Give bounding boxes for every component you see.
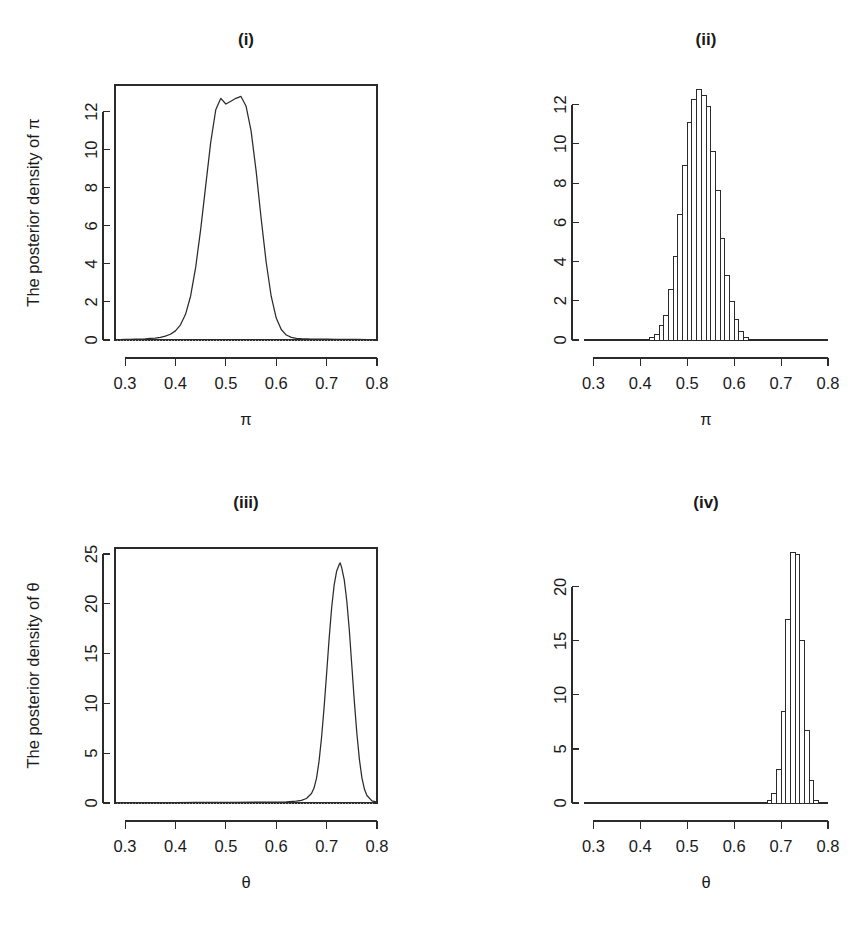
x-tick-label: 0.6 (723, 374, 746, 392)
histogram-bar (697, 90, 702, 340)
y-tick-label: 2 (551, 296, 569, 305)
y-axis-title: The posterior density of π (24, 118, 42, 306)
x-tick-label: 0.7 (770, 374, 793, 392)
x-tick-label: 0.6 (265, 374, 288, 392)
x-tick-label: 0.7 (770, 837, 793, 855)
histogram-bar (659, 325, 664, 340)
panel-title: (ii) (696, 30, 717, 49)
histogram-bar (734, 319, 739, 340)
x-tick-label: 0.5 (676, 374, 699, 392)
histogram-bar (668, 289, 673, 340)
y-tick-label: 20 (82, 595, 100, 613)
histogram-bar (767, 801, 772, 803)
figure-canvas: (i)024681012The posterior density of π0.… (0, 0, 867, 926)
y-tick-label: 5 (551, 744, 569, 753)
histogram-bar (683, 165, 688, 340)
y-tick-label: 5 (82, 749, 100, 758)
y-tick-label: 15 (551, 632, 569, 650)
density-curve (115, 96, 377, 339)
panel-title: (iv) (693, 493, 719, 512)
x-axis-title: θ (241, 873, 250, 891)
plot-box-frame (115, 85, 377, 340)
x-axis-title: π (700, 410, 711, 428)
x-tick-label: 0.8 (817, 374, 840, 392)
x-tick-label: 0.4 (629, 374, 652, 392)
histogram-bar (781, 711, 786, 803)
x-axis-title: θ (701, 873, 710, 891)
y-tick-label: 0 (551, 335, 569, 344)
histogram-bar (701, 96, 706, 340)
y-tick-label: 20 (551, 578, 569, 596)
y-tick-label: 12 (551, 95, 569, 113)
x-tick-label: 0.3 (114, 837, 137, 855)
histogram-bar (650, 337, 655, 340)
histogram-bar (678, 214, 683, 340)
panel-iv-svg: (iv)051015200.30.40.50.60.70.8θ (434, 463, 867, 926)
panel-ii: (ii)0246810120.30.40.50.60.70.8π (434, 0, 867, 463)
x-tick-label: 0.4 (164, 837, 187, 855)
panel-iii-svg: (iii)0510152025The posterior density of … (0, 463, 433, 926)
panel-title: (i) (238, 30, 254, 49)
y-tick-label: 0 (551, 798, 569, 807)
histogram-bar (744, 337, 749, 340)
x-axis-title: π (240, 410, 251, 428)
y-tick-label: 8 (551, 178, 569, 187)
x-tick-label: 0.3 (582, 837, 605, 855)
histogram-bar (814, 800, 819, 803)
histogram-bar (664, 315, 669, 340)
histogram-bar (795, 554, 800, 803)
histogram-bar (673, 257, 678, 340)
x-tick-label: 0.8 (366, 837, 389, 855)
x-tick-label: 0.5 (214, 837, 237, 855)
panel-iii: (iii)0510152025The posterior density of … (0, 463, 433, 926)
histogram-bar (725, 275, 730, 340)
panel-i: (i)024681012The posterior density of π0.… (0, 0, 433, 463)
panel-iv: (iv)051015200.30.40.50.60.70.8θ (434, 463, 867, 926)
x-tick-label: 0.5 (214, 374, 237, 392)
histogram-bar (772, 793, 777, 803)
histogram-bar (687, 122, 692, 340)
y-tick-label: 4 (82, 259, 100, 268)
x-tick-label: 0.3 (114, 374, 137, 392)
y-tick-label: 10 (82, 694, 100, 712)
histogram-bar (706, 107, 711, 340)
y-tick-label: 4 (551, 257, 569, 266)
y-tick-label: 6 (551, 218, 569, 227)
x-tick-label: 0.7 (315, 374, 338, 392)
histogram-bar (809, 780, 814, 803)
y-tick-label: 25 (82, 545, 100, 563)
panel-i-svg: (i)024681012The posterior density of π0.… (0, 0, 433, 463)
histogram-bar (729, 302, 734, 340)
panel-title: (iii) (233, 493, 259, 512)
plot-box-frame (115, 548, 377, 803)
histogram-bar (776, 770, 781, 804)
x-tick-label: 0.4 (629, 837, 652, 855)
x-tick-label: 0.8 (817, 837, 840, 855)
histogram-bar (711, 152, 716, 340)
y-tick-label: 10 (551, 135, 569, 153)
y-tick-label: 10 (82, 141, 100, 159)
y-tick-label: 0 (82, 335, 100, 344)
y-tick-label: 12 (82, 102, 100, 120)
y-tick-label: 15 (82, 644, 100, 662)
histogram-bar (786, 619, 791, 803)
histogram-bar (654, 334, 659, 340)
x-tick-label: 0.6 (265, 837, 288, 855)
density-curve (115, 563, 377, 803)
histogram-bar (790, 552, 795, 803)
panel-ii-svg: (ii)0246810120.30.40.50.60.70.8π (434, 0, 867, 463)
y-tick-label: 2 (82, 297, 100, 306)
histogram-bar (692, 100, 697, 340)
x-tick-label: 0.7 (315, 837, 338, 855)
histogram-bar (739, 331, 744, 340)
y-tick-label: 10 (551, 686, 569, 704)
x-tick-label: 0.6 (723, 837, 746, 855)
x-tick-label: 0.3 (582, 374, 605, 392)
y-tick-label: 0 (82, 798, 100, 807)
x-tick-label: 0.5 (676, 837, 699, 855)
histogram-bar (715, 191, 720, 340)
y-tick-label: 6 (82, 221, 100, 230)
x-tick-label: 0.4 (164, 374, 187, 392)
histogram-bar (720, 238, 725, 340)
y-axis-title: The posterior density of θ (24, 582, 42, 768)
